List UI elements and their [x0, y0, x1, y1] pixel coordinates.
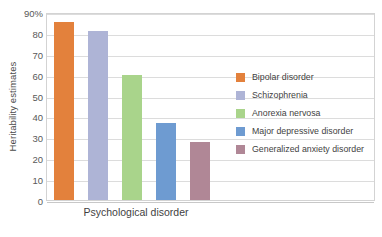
legend-item-label: Schizophrenia — [252, 90, 308, 100]
y-axis-tick-label: 80 — [32, 28, 43, 39]
bar-major-depressive-disorder — [156, 123, 176, 200]
gridline — [47, 202, 374, 203]
legend-swatch-icon — [236, 73, 245, 82]
bar-schizophrenia — [88, 31, 108, 200]
legend-swatch-icon — [236, 127, 245, 136]
y-axis-title-text: Heritability estimates — [8, 61, 19, 151]
y-axis-tick-labels: 0102030405060708090% — [20, 13, 46, 201]
legend-swatch-icon — [236, 109, 245, 118]
y-axis-tick-label: 0 — [38, 196, 43, 207]
legend-item-label: Anorexia nervosa — [252, 108, 320, 118]
bar-bipolar-disorder — [54, 22, 74, 200]
y-axis-tick-label: 50 — [32, 91, 43, 102]
legend-swatch-icon — [236, 145, 245, 154]
x-axis-title: Psychological disorder — [46, 206, 226, 218]
legend-item-label: Major depressive disorder — [252, 126, 353, 136]
chart-legend: Bipolar disorderSchizophreniaAnorexia ne… — [236, 68, 364, 158]
y-axis-tick-label: 10 — [32, 175, 43, 186]
y-axis-tick-label: 40 — [32, 112, 43, 123]
bar-generalized-anxiety-disorder — [190, 142, 210, 200]
legend-swatch-icon — [236, 91, 245, 100]
y-axis-tick-label: 60 — [32, 70, 43, 81]
y-axis-tick-label: 90% — [24, 8, 43, 19]
bar-chart: Heritability estimates 01020304050607080… — [0, 0, 382, 237]
legend-item-label: Generalized anxiety disorder — [252, 144, 364, 154]
y-axis-tick-label: 20 — [32, 154, 43, 165]
legend-item[interactable]: Schizophrenia — [236, 86, 364, 104]
legend-item[interactable]: Generalized anxiety disorder — [236, 140, 364, 158]
y-axis-tick-label: 70 — [32, 49, 43, 60]
bar-anorexia-nervosa — [122, 75, 142, 200]
legend-item[interactable]: Major depressive disorder — [236, 122, 364, 140]
y-axis-tick-label: 30 — [32, 133, 43, 144]
legend-item[interactable]: Anorexia nervosa — [236, 104, 364, 122]
legend-item-label: Bipolar disorder — [252, 72, 314, 82]
legend-item[interactable]: Bipolar disorder — [236, 68, 364, 86]
